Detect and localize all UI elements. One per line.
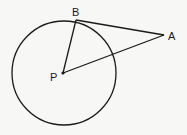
segment-pa <box>63 35 164 73</box>
geometry-diagram: B A P <box>0 0 187 135</box>
label-p: P <box>50 71 57 83</box>
label-b: B <box>72 6 79 18</box>
label-a: A <box>168 30 176 42</box>
segment-pb <box>63 20 76 73</box>
center-point-p <box>61 71 64 74</box>
